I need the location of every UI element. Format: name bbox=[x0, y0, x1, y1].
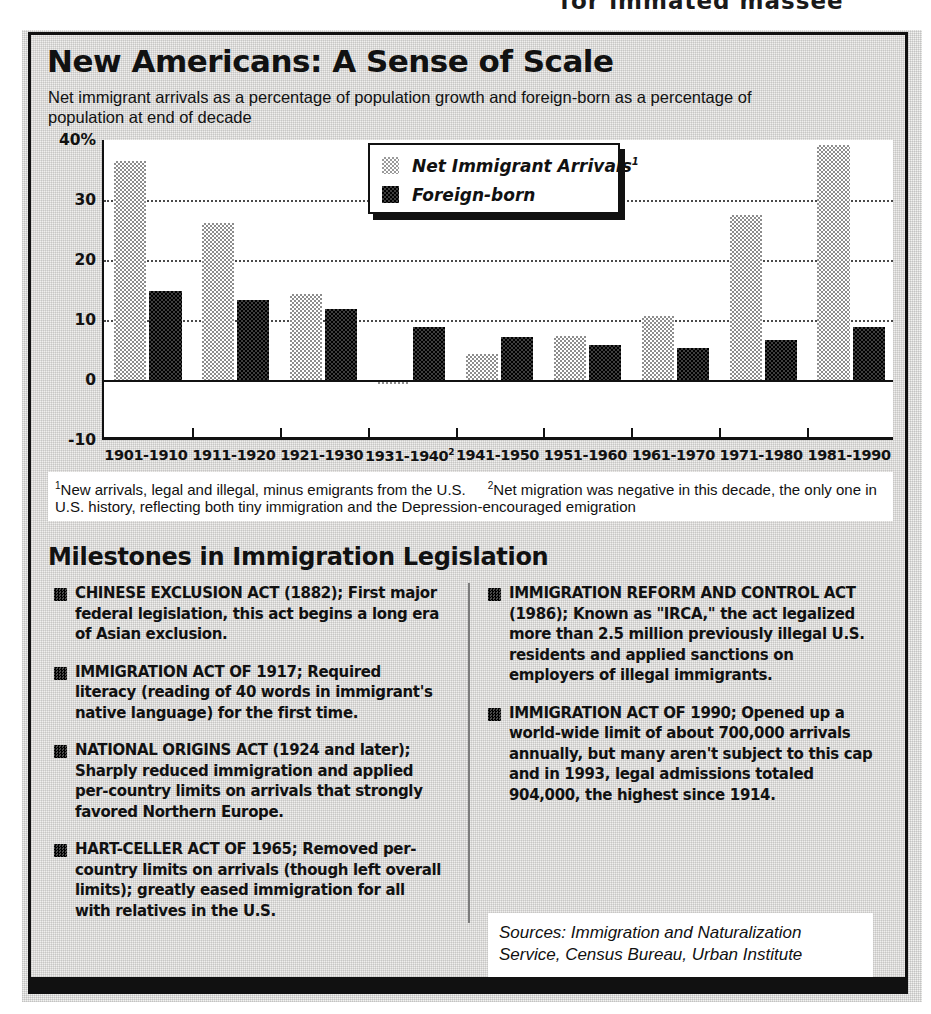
milestone-title: IMMIGRATION ACT OF 1917; bbox=[75, 663, 302, 681]
y-tick-label: -10 bbox=[68, 431, 96, 449]
chart-footnotes: 1New arrivals, legal and illegal, minus … bbox=[48, 472, 893, 521]
bar-dark-1941-1950 bbox=[501, 337, 533, 380]
page-margin-right bbox=[922, 0, 931, 1014]
bar-light-1981-1990 bbox=[817, 145, 849, 380]
legend-swatch-dark-icon bbox=[382, 186, 399, 203]
legend-label-foreign-born: Foreign-born bbox=[412, 185, 535, 205]
bar-light-1911-1920 bbox=[202, 223, 234, 380]
milestone-item: IMMIGRATION REFORM AND CONTROL ACT (1986… bbox=[488, 583, 878, 686]
x-tick-label: 1971-1980 bbox=[720, 447, 803, 463]
x-axis-tick bbox=[192, 428, 194, 437]
x-axis-tick bbox=[368, 428, 370, 437]
legend-swatch-light-icon bbox=[382, 157, 399, 174]
zero-axis-line bbox=[104, 380, 893, 382]
y-axis-tick-labels: -10010203040% bbox=[48, 140, 96, 440]
milestone-text: CHINESE EXCLUSION ACT (1882); First majo… bbox=[75, 583, 444, 645]
x-tick-label: 1941-1950 bbox=[456, 447, 539, 463]
x-axis-tick bbox=[280, 428, 282, 437]
milestone-item: HART-CELLER ACT OF 1965; Removed per-cou… bbox=[54, 839, 444, 921]
page-margin-left bbox=[0, 0, 22, 1014]
bar-dark-1961-1970 bbox=[677, 348, 709, 380]
bullet-square-icon bbox=[488, 708, 501, 721]
x-tick-label: 1951-1960 bbox=[544, 447, 627, 463]
bullet-square-icon bbox=[54, 745, 67, 758]
bar-dark-1981-1990 bbox=[853, 327, 885, 380]
bullet-square-icon bbox=[54, 588, 67, 601]
milestone-item: IMMIGRATION ACT OF 1917; Required litera… bbox=[54, 662, 444, 724]
milestone-text: HART-CELLER ACT OF 1965; Removed per-cou… bbox=[75, 839, 444, 921]
x-tick-label: 1931-19402 bbox=[365, 447, 454, 464]
milestone-title: IMMIGRATION ACT OF 1990; bbox=[509, 704, 736, 722]
bullet-square-icon bbox=[488, 588, 501, 601]
column-divider bbox=[468, 583, 470, 923]
footnote-1-text: New arrivals, legal and illegal, minus e… bbox=[61, 481, 466, 498]
x-axis-tick bbox=[719, 428, 721, 437]
milestones-column-left: CHINESE EXCLUSION ACT (1882); First majo… bbox=[54, 583, 444, 938]
milestones-heading: Milestones in Immigration Legislation bbox=[48, 543, 548, 571]
x-tick-label: 1981-1990 bbox=[807, 447, 890, 463]
legend-item-net-immigrant-arrivals: Net Immigrant Arrivals1 bbox=[382, 151, 618, 180]
milestone-title: NATIONAL ORIGINS ACT (1924 and later); bbox=[75, 741, 410, 759]
y-tick-label: 30 bbox=[74, 191, 96, 209]
chart-plot-wrapper: -10010203040% Net Immigrant Arrivals1 Fo… bbox=[48, 140, 893, 440]
milestones-column-right: IMMIGRATION REFORM AND CONTROL ACT (1986… bbox=[488, 583, 878, 822]
milestone-text: IMMIGRATION REFORM AND CONTROL ACT (1986… bbox=[509, 583, 878, 686]
legend-item-foreign-born: Foreign-born bbox=[382, 180, 618, 209]
milestone-text: NATIONAL ORIGINS ACT (1924 and later); S… bbox=[75, 740, 444, 822]
bar-light-1901-1910 bbox=[114, 161, 146, 380]
x-axis-tick bbox=[807, 428, 809, 437]
milestone-title: HART-CELLER ACT OF 1965; bbox=[75, 840, 297, 858]
bar-light-1961-1970 bbox=[642, 316, 674, 380]
cut-off-headline: for immated massee bbox=[560, 0, 920, 12]
bar-light-1941-1950 bbox=[466, 354, 498, 380]
bar-dark-1971-1980 bbox=[765, 340, 797, 380]
bar-light-1921-1930 bbox=[290, 294, 322, 380]
x-axis-tick bbox=[456, 428, 458, 437]
bar-dark-1911-1920 bbox=[237, 300, 269, 380]
x-axis-tick bbox=[631, 428, 633, 437]
infographic-panel: New Americans: A Sense of Scale Net immi… bbox=[28, 32, 908, 994]
x-axis-tick-labels: 1901-19101911-19201921-19301931-19402194… bbox=[102, 447, 931, 469]
chart-subtitle: Net immigrant arrivals as a percentage o… bbox=[48, 87, 818, 127]
y-tick-label: 20 bbox=[74, 251, 96, 269]
legend-label-net-immigrant-arrivals: Net Immigrant Arrivals1 bbox=[412, 156, 639, 176]
bar-light-1971-1980 bbox=[730, 215, 762, 380]
panel-footer-bar bbox=[31, 977, 905, 991]
y-tick-label: 0 bbox=[85, 371, 96, 389]
bar-dark-1901-1910 bbox=[149, 291, 181, 380]
milestone-item: NATIONAL ORIGINS ACT (1924 and later); S… bbox=[54, 740, 444, 822]
x-axis-tick bbox=[543, 428, 545, 437]
sources-box: Sources: Immigration and Naturalization … bbox=[488, 913, 873, 977]
milestone-text: IMMIGRATION ACT OF 1917; Required litera… bbox=[75, 662, 444, 724]
bar-dark-1921-1930 bbox=[325, 309, 357, 380]
chart-legend: Net Immigrant Arrivals1 Foreign-born bbox=[368, 143, 620, 214]
y-tick-label: 40% bbox=[59, 131, 96, 149]
x-tick-label: 1961-1970 bbox=[632, 447, 715, 463]
milestone-title: CHINESE EXCLUSION ACT (1882); bbox=[75, 584, 343, 602]
bullet-square-icon bbox=[54, 667, 67, 680]
x-tick-label: 1911-1920 bbox=[192, 447, 275, 463]
milestone-item: CHINESE EXCLUSION ACT (1882); First majo… bbox=[54, 583, 444, 645]
x-tick-label: 1921-1930 bbox=[280, 447, 363, 463]
milestone-text: IMMIGRATION ACT OF 1990; Opened up a wor… bbox=[509, 703, 878, 806]
milestones-columns: CHINESE EXCLUSION ACT (1882); First majo… bbox=[48, 583, 893, 968]
page-margin-bottom bbox=[0, 1002, 931, 1014]
milestone-body: Sharply reduced immigration and applied … bbox=[75, 762, 423, 821]
bullet-square-icon bbox=[54, 844, 67, 857]
bar-light-1951-1960 bbox=[554, 336, 586, 380]
x-tick-label: 1901-1910 bbox=[104, 447, 187, 463]
y-tick-label: 10 bbox=[74, 311, 96, 329]
milestone-item: IMMIGRATION ACT OF 1990; Opened up a wor… bbox=[488, 703, 878, 806]
page-title: New Americans: A Sense of Scale bbox=[47, 43, 613, 79]
bar-dark-1931-1940 bbox=[413, 327, 445, 380]
bar-dark-1951-1960 bbox=[589, 345, 621, 380]
